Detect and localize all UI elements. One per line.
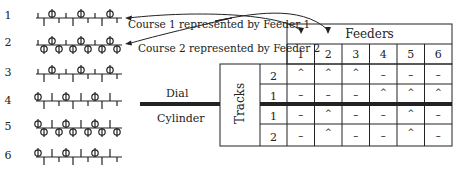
table-lines bbox=[0, 0, 474, 174]
arrowhead-course1 bbox=[125, 16, 132, 21]
arrowhead-feeder2 bbox=[325, 27, 331, 34]
arrowhead-course2 bbox=[125, 41, 132, 46]
arrowhead-feeder1 bbox=[298, 27, 304, 34]
arrow-feeder2-to-course2 bbox=[215, 13, 328, 30]
